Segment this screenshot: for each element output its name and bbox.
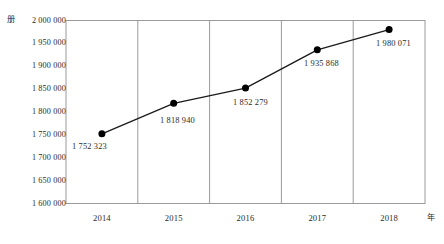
y-axis-unit-label: 册 [7,16,15,24]
y-axis-tick-label: 1 600 000 [32,199,66,207]
data-point-marker[interactable] [314,46,321,53]
data-point-marker[interactable] [386,26,393,33]
y-axis-tick-label: 1 900 000 [32,62,66,70]
y-axis-tick-label: 1 950 000 [32,39,66,47]
data-point-value-label: 1 752 323 [72,143,107,151]
x-axis-tick-label: 2018 [380,214,398,223]
y-axis-tick-label: 2 000 000 [32,16,66,24]
data-point-value-label: 1 980 071 [376,40,411,48]
x-axis-tick-label: 2016 [237,214,255,223]
y-axis-tick-label: 1 700 000 [32,154,66,162]
y-axis-tick-label: 1 850 000 [32,85,66,93]
data-point-value-label: 1 852 279 [233,99,268,107]
x-axis-tick-label: 2017 [308,214,326,223]
x-axis-tick-label: 2014 [93,214,111,223]
y-axis-tick-label: 1 750 000 [32,131,66,139]
data-point-marker[interactable] [242,85,249,92]
y-axis-tick-label: 1 800 000 [32,108,66,116]
y-axis-tick-label: 1 650 000 [32,177,66,185]
data-point-value-label: 1 935 868 [304,60,339,68]
chart-plot-svg [0,0,444,244]
data-point-marker[interactable] [98,130,105,137]
data-point-value-label: 1 818 940 [160,117,195,125]
x-axis-tick-label: 2015 [165,214,183,223]
line-chart: 册 2 000 000 1 950 000 1 900 000 1 850 00… [0,0,444,244]
data-point-marker[interactable] [170,100,177,107]
x-axis-unit-label: 年 [427,214,435,222]
plot-area-frame [66,21,425,204]
